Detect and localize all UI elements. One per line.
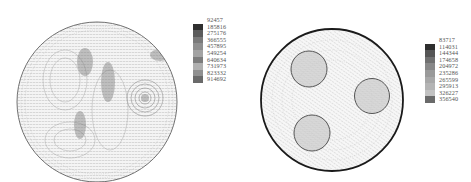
left-vector-field xyxy=(0,0,200,182)
inclusion-right xyxy=(355,79,390,114)
inclusion-top-left xyxy=(291,51,327,87)
legend-row: 356540 xyxy=(425,96,458,103)
right-legend: 83717 114031 144344 174658 204972 235286… xyxy=(425,37,458,103)
legend-label: 914692 xyxy=(207,76,226,83)
legend-label: 356540 xyxy=(439,96,458,103)
legend-row: 914692 xyxy=(193,76,226,83)
inclusion-bottom-left xyxy=(294,115,330,151)
right-vector-field xyxy=(250,0,420,182)
right-vector-plot: 83717 114031 144344 174658 204972 235286… xyxy=(250,0,471,182)
left-vector-plot: 92457 185816 275176 366555 457895 549254… xyxy=(0,0,200,182)
left-legend: 92457 185816 275176 366555 457895 549254… xyxy=(193,17,226,83)
